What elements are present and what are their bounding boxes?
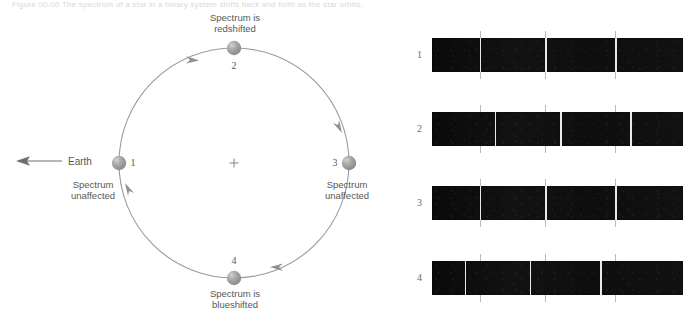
spectrum-reference-tick-top (545, 254, 546, 261)
star-position-3 (342, 156, 356, 170)
spectrum-reference-tick-bottom (615, 72, 616, 79)
spectrum-reference-tick-top (545, 179, 546, 186)
spectrum-reference-tick-bottom (545, 72, 546, 79)
spectrum-strip (432, 186, 683, 220)
spectrum-reference-tick-top (480, 254, 481, 261)
spectrum-reference-tick-top (545, 105, 546, 112)
orbit-caption-2: Spectrum is redshifted (189, 12, 281, 34)
spectral-line (530, 261, 532, 295)
spectral-line (600, 261, 602, 295)
spectrum-reference-tick-top (545, 31, 546, 38)
spectrum-reference-tick-bottom (480, 146, 481, 153)
spectrum-reference-tick-top (480, 179, 481, 186)
spectral-line (560, 112, 562, 146)
spectrum-reference-tick-top (615, 179, 616, 186)
orbit-direction-arrow-top (186, 56, 199, 64)
spectrum-reference-tick-bottom (615, 295, 616, 302)
orbit-position-number-4: 4 (227, 255, 241, 266)
spectrum-reference-tick-bottom (545, 295, 546, 302)
earth-direction-arrow (16, 156, 62, 166)
spectrum-strip (432, 38, 683, 72)
spectrum-reference-tick-top (480, 31, 481, 38)
spectrum-reference-tick-bottom (615, 220, 616, 227)
spectral-line (615, 38, 617, 72)
earth-label: Earth (68, 156, 92, 167)
orbit-caption-3: Spectrum unaffected (302, 179, 392, 201)
star-position-4 (227, 271, 241, 285)
spectrum-reference-tick-top (615, 254, 616, 261)
orbit-position-number-2: 2 (227, 60, 241, 71)
spectral-line (480, 38, 482, 72)
spectrum-index-label: 1 (404, 49, 422, 60)
spectral-line (465, 261, 467, 295)
center-of-mass-marker (230, 159, 239, 168)
figure-canvas: Figure 00-00 The spectrum of a star in a… (0, 0, 700, 318)
orbit-position-number-3: 3 (328, 157, 342, 168)
orbit-direction-arrow-right (333, 120, 342, 133)
spectrum-reference-tick-bottom (480, 295, 481, 302)
spectrum-strip (432, 261, 683, 295)
spectral-line (480, 186, 482, 220)
spectral-line (630, 112, 632, 146)
spectrum-reference-tick-bottom (615, 146, 616, 153)
spectral-line (495, 112, 497, 146)
spectrum-index-label: 3 (404, 197, 422, 208)
spectrum-reference-tick-bottom (545, 146, 546, 153)
orbit-position-number-1: 1 (126, 157, 140, 168)
orbit-caption-1: Spectrum unaffected (48, 179, 138, 201)
spectral-line (615, 186, 617, 220)
orbit-caption-4: Spectrum is blueshifted (188, 288, 282, 310)
spectrum-strip (432, 112, 683, 146)
spectral-line (545, 38, 547, 72)
star-position-2 (227, 41, 241, 55)
star-position-1 (112, 156, 126, 170)
spectrum-reference-tick-bottom (480, 220, 481, 227)
spectral-line (545, 186, 547, 220)
spectrum-reference-tick-bottom (480, 72, 481, 79)
spectrum-reference-tick-bottom (545, 220, 546, 227)
spectrum-reference-tick-top (615, 31, 616, 38)
spectrum-reference-tick-top (480, 105, 481, 112)
spectrum-index-label: 4 (404, 272, 422, 283)
spectrum-reference-tick-top (615, 105, 616, 112)
spectrum-index-label: 2 (404, 123, 422, 134)
